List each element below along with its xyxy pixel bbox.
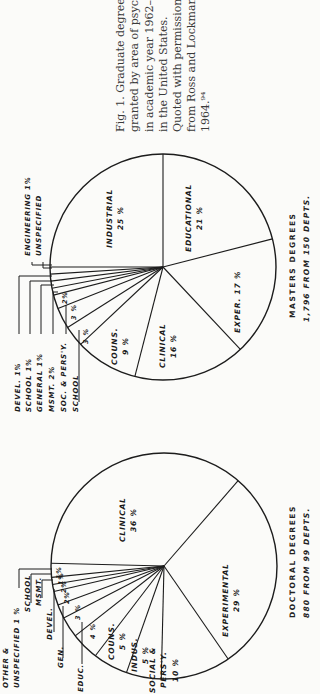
slice-label-line: 5 %: [142, 646, 150, 664]
slice-label-line: COUNS.: [111, 327, 119, 364]
callout-label: SCHOOL: [73, 375, 80, 412]
caption-line-7: 1964.⁹⁴: [199, 92, 213, 132]
callout-label: GENERAL 1%: [37, 353, 44, 412]
masters-title: MASTERS DEGREES: [288, 212, 297, 318]
callout-label: OTHER &: [3, 647, 10, 688]
slice-divider: [163, 239, 272, 267]
slice-label-line: 3 %: [83, 328, 90, 344]
slice-label-line: INDUS.: [131, 638, 139, 672]
leader-line: [32, 262, 52, 265]
slice-divider: [164, 566, 228, 659]
callout-label: SCHOOL: [25, 575, 32, 612]
slice-label-line: 5 %: [119, 632, 127, 650]
slice-label-line: 4 %: [90, 623, 97, 639]
slice-label-line: PERS'Y.: [160, 652, 168, 689]
slice-label-line: 25 %: [117, 206, 125, 230]
slice-label-line: 1%: [56, 567, 63, 580]
caption-line-3: in academic year 1962–63: [143, 0, 157, 132]
slice-label-line: 36 %: [130, 508, 138, 532]
slice-label-line: EXPER. 17 %: [234, 271, 242, 333]
slice-label-line: EXPERIMENTAL: [222, 563, 230, 637]
caption-line-1: Fig. 1. Graduate degrees: [114, 0, 128, 132]
slice-label-line: INDUSTRIAL: [106, 188, 114, 247]
slice-label-line: 10 %: [172, 658, 180, 682]
callout-label: ENGINEERING 1%: [25, 176, 32, 256]
callout-label: EDUC.: [78, 664, 85, 692]
slice-label-line: EDUCATIONAL: [185, 184, 193, 252]
callout-label: MSMT.: [36, 577, 43, 606]
slice-label-line: COUNS.: [108, 622, 116, 659]
slice-label-line: CLINICAL: [119, 498, 127, 543]
slice-label-line: 16 %: [170, 334, 178, 358]
callout-label: SOC. & PERS'Y.: [61, 342, 68, 412]
doctoral-title: DOCTORAL DEGREES: [288, 505, 297, 618]
caption-line-4: in the United States.: [157, 16, 171, 132]
slice-divider: [81, 267, 163, 344]
caption-line-5: Quoted with permission: [171, 0, 185, 132]
doctoral-subtitle: 880 FROM 99 DEPTS.: [302, 508, 311, 618]
doctoral-pie: [51, 453, 277, 679]
slice-label-line: 2%: [62, 292, 69, 305]
slice-label-line: 2%: [64, 592, 71, 605]
slice-label-line: 3 %: [71, 304, 78, 320]
figure: Fig. 1. Graduate degrees granted by area…: [0, 0, 320, 694]
leader-line: [41, 285, 54, 334]
callout-label: DEVEL. 1%: [15, 363, 22, 412]
leader-line: [42, 580, 53, 598]
slice-label-line: 3 %: [75, 604, 82, 620]
callout-label: DEVEL.: [47, 607, 54, 640]
callout-label: MSMT. 2%: [49, 366, 56, 412]
slice-label-line: 9 %: [122, 337, 130, 355]
callout-label: GEN.: [58, 646, 65, 668]
callout-label: SCHOOL 1%: [26, 358, 33, 412]
slice-label-line: 21 %: [196, 206, 204, 230]
callout-label: UNSPECIFIED 1 %: [14, 607, 21, 688]
slice-divider: [54, 267, 163, 295]
caption-line-2: granted by area of psycho: [128, 0, 142, 132]
masters-subtitle: 1,796 FROM 150 DEPTS.: [302, 195, 311, 322]
slice-label-line: 29 %: [233, 588, 241, 612]
caption-line-6: from Ross and Lockman,: [185, 0, 199, 132]
slice-label-line: CLINICAL: [159, 324, 167, 369]
slice-divider: [51, 563, 164, 566]
callout-label: UNSPECIFIED: [36, 195, 43, 256]
slice-divider: [164, 481, 238, 566]
